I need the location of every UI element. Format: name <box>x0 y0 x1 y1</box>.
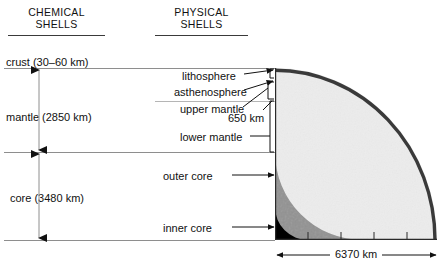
chemical-shells-heading-line1: CHEMICAL <box>8 6 105 18</box>
label-scale-bar: 6370 km <box>330 248 382 261</box>
chemical-shells-heading-line2: SHELLS <box>8 18 105 30</box>
earth-structure-diagram: CHEMICAL SHELLS PHYSICAL SHELLS crust (3… <box>0 0 446 273</box>
leader-asthenosphere <box>244 81 273 90</box>
label-outer-core: outer core <box>163 170 213 183</box>
physical-shells-heading-line1: PHYSICAL <box>155 6 248 18</box>
earth-cross-section <box>275 68 438 241</box>
label-650-km-depth: 650 km <box>228 112 264 125</box>
label-mantle: mantle (2850 km) <box>6 111 92 124</box>
boundary-rule-mantle-core <box>4 152 275 153</box>
leader-650-km <box>263 101 272 110</box>
guide-rule-upper-mantle <box>155 101 275 102</box>
edge-brackets <box>268 69 274 152</box>
physical-shells-heading-line2: SHELLS <box>155 18 248 30</box>
label-core: core (3480 km) <box>10 192 84 205</box>
chemical-shells-heading: CHEMICAL SHELLS <box>8 6 105 30</box>
boundary-rule-bottom <box>4 240 275 241</box>
label-lower-mantle: lower mantle <box>180 131 242 144</box>
leader-lithosphere <box>244 70 273 74</box>
label-crust: crust (30–60 km) <box>6 56 89 69</box>
physical-shells-heading-underline <box>155 35 248 36</box>
physical-shells-heading: PHYSICAL SHELLS <box>155 6 248 30</box>
label-inner-core: inner core <box>163 222 212 235</box>
label-lithosphere: lithosphere <box>182 70 236 83</box>
chemical-shells-heading-underline <box>8 35 105 36</box>
earth-cross-section-svg <box>275 68 438 241</box>
label-asthenosphere: asthenosphere <box>174 86 247 99</box>
